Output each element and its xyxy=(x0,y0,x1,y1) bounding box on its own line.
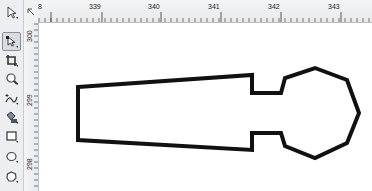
key-outline[interactable] xyxy=(78,68,359,158)
key-shape[interactable] xyxy=(0,0,372,191)
